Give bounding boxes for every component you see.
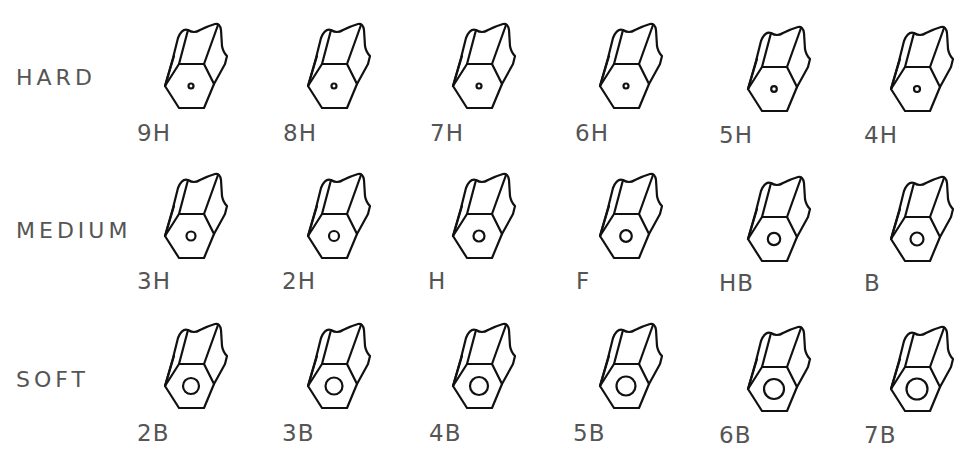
pencil-icon <box>160 170 232 265</box>
pencil-icon <box>303 170 375 265</box>
grade-label: 4B <box>429 420 461 446</box>
grade-label: 4H <box>864 122 898 148</box>
pencil-icon <box>886 23 958 118</box>
grade-label: 3B <box>282 420 314 446</box>
pencil-icon <box>886 323 958 418</box>
grade-label: 5B <box>573 420 605 446</box>
pencil-icon <box>448 170 520 265</box>
grade-label: 5H <box>719 122 753 148</box>
grade-label: 7B <box>864 422 896 448</box>
grade-label: 6H <box>575 120 609 146</box>
row-label-hard: HARD <box>16 65 96 90</box>
pencil-icon <box>743 23 815 118</box>
pencil-icon <box>303 20 375 115</box>
pencil-icon <box>886 173 958 268</box>
grade-label: 2B <box>137 420 169 446</box>
grade-label: B <box>864 270 881 296</box>
pencil-icon <box>303 320 375 415</box>
pencil-icon <box>595 320 667 415</box>
grade-label: 2H <box>282 268 316 294</box>
pencil-icon <box>160 320 232 415</box>
row-label-soft: SOFT <box>16 367 89 392</box>
grade-label: F <box>576 268 590 294</box>
pencil-icon <box>743 323 815 418</box>
pencil-icon <box>160 20 232 115</box>
pencil-icon <box>743 173 815 268</box>
pencil-icon <box>448 320 520 415</box>
grade-label: 7H <box>430 120 464 146</box>
pencil-icon <box>595 170 667 265</box>
grade-label: HB <box>719 270 754 296</box>
grade-label: H <box>428 268 446 294</box>
row-label-medium: MEDIUM <box>16 218 131 243</box>
pencil-icon <box>595 20 667 115</box>
pencil-icon <box>448 20 520 115</box>
grade-label: 8H <box>283 120 317 146</box>
grade-label: 9H <box>137 120 171 146</box>
grade-label: 3H <box>137 268 171 294</box>
grade-label: 6B <box>719 422 751 448</box>
